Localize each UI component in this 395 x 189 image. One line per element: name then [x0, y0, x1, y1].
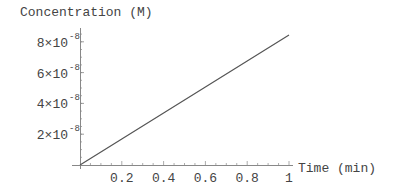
y-tick-exponent: -8 — [69, 32, 80, 42]
ticks: 2×10-84×10-86×10-88×10-80.20.40.60.81 — [37, 32, 293, 186]
series-line — [80, 35, 289, 165]
x-tick-label: 0.8 — [235, 171, 258, 186]
y-tick-label: 2×10 — [37, 128, 68, 143]
x-tick-label: 0.2 — [110, 171, 133, 186]
line-chart-svg: Concentration (M) Time (min) 2×10-84×10-… — [0, 0, 395, 189]
x-tick-label: 0.6 — [194, 171, 217, 186]
x-tick-label: 0.4 — [152, 171, 176, 186]
y-tick-label: 6×10 — [37, 67, 68, 82]
x-tick-label: 1 — [285, 171, 293, 186]
x-axis-label: Time (min) — [298, 161, 376, 176]
y-tick-exponent: -8 — [69, 93, 80, 103]
y-axis-label: Concentration (M) — [20, 5, 153, 20]
chart: Concentration (M) Time (min) 2×10-84×10-… — [0, 0, 395, 189]
y-tick-label: 8×10 — [37, 36, 68, 51]
y-tick-label: 4×10 — [37, 97, 68, 112]
y-tick-exponent: -8 — [69, 124, 80, 134]
data-series — [80, 35, 289, 165]
y-tick-exponent: -8 — [69, 63, 80, 73]
axes — [72, 28, 293, 169]
